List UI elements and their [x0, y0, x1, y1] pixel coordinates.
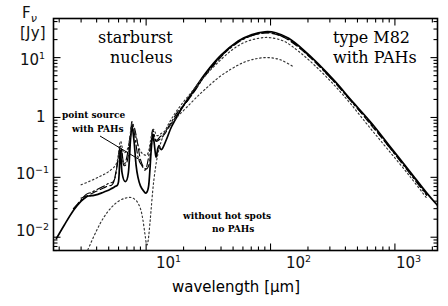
series-3: [88, 37, 427, 249]
series-2: [81, 33, 427, 198]
series-4: [81, 58, 292, 185]
plot-canvas: [0, 0, 448, 306]
figure-root: Fν [Jy] 101 1 10−1 10−2 101 102 103 wave…: [0, 0, 448, 306]
series-1: [73, 33, 426, 209]
